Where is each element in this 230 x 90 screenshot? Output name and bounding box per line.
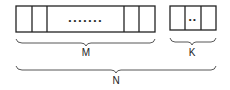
brace-n xyxy=(16,66,216,73)
brace-k xyxy=(170,38,216,45)
group-k-ellipsis: •• xyxy=(189,15,198,24)
label-k: K xyxy=(189,47,196,58)
diagram: ••••••• •• M K N xyxy=(0,0,230,90)
label-m: M xyxy=(82,47,90,58)
label-n: N xyxy=(112,75,119,86)
brace-m xyxy=(16,39,155,46)
group-m-ellipsis: ••••••• xyxy=(68,16,103,25)
